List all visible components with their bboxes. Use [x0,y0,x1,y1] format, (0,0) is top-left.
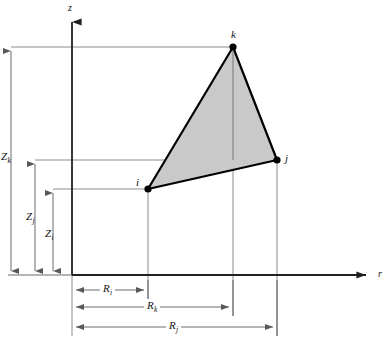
dimension-subscript-Zi: i [51,233,53,242]
dimension-subscript-Zk: k [7,156,10,165]
dimension-subscript-Zj: j [32,216,34,225]
triangular-element [148,47,277,189]
dimension-symbol-Rk: R [147,299,154,311]
vertical-dimension-lines [8,51,72,275]
node-label-i: i [136,177,139,188]
dimension-symbol-Rj: R [169,319,176,331]
dimension-label-Zk: Zk [1,151,10,162]
node-marker-j [273,156,280,163]
z-axis-label: z [68,3,72,13]
dimension-subscript-Rj: j [176,325,178,334]
dimension-label-Rj: Rj [166,320,181,331]
dimension-subscript-Ri: i [110,288,112,297]
axisymmetric-element-diagram: z r i j k Zk Zj Zi Ri Rk Rj [0,0,389,346]
node-label-k: k [231,29,236,40]
dimension-label-Ri: Ri [100,283,115,294]
node-label-j: j [285,153,288,164]
diagram-canvas [0,0,389,346]
node-marker-i [144,185,151,192]
node-marker-k [229,43,236,50]
dimension-subscript-Rk: k [154,305,157,314]
dimension-label-Rk: Rk [144,300,160,311]
dimension-label-Zj: Zj [26,211,34,222]
dimension-label-Zi: Zi [45,228,53,239]
dimension-symbol-Ri: R [103,282,110,294]
r-axis-label: r [378,269,382,279]
